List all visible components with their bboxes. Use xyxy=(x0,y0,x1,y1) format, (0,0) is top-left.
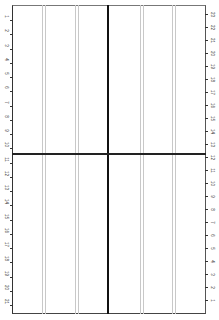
right-axis-label: 22 xyxy=(210,24,215,32)
right-axis-tick xyxy=(205,92,208,93)
right-axis-tick xyxy=(205,248,208,249)
left-axis-tick xyxy=(10,248,13,249)
left-axis-label: 7 xyxy=(4,98,9,106)
right-axis-tick xyxy=(205,157,208,158)
left-axis-label: 3 xyxy=(4,41,9,49)
left-axis-label: 14 xyxy=(4,198,9,206)
center-horizontal-line xyxy=(12,153,206,155)
right-axis-tick xyxy=(205,27,208,28)
right-axis-tick xyxy=(205,222,208,223)
right-axis-tick xyxy=(205,287,208,288)
left-axis-tick xyxy=(10,220,13,221)
right-axis-tick xyxy=(205,131,208,132)
right-axis-tick xyxy=(205,209,208,210)
right-axis-label: 19 xyxy=(210,63,215,71)
right-axis-label: 5 xyxy=(210,245,215,253)
left-axis-tick xyxy=(10,234,13,235)
right-axis-tick xyxy=(205,14,208,15)
left-axis-tick xyxy=(10,163,13,164)
right-axis-label: 4 xyxy=(210,258,215,266)
guide-line xyxy=(42,5,43,314)
right-axis-label: 23 xyxy=(210,11,215,19)
right-axis-tick xyxy=(205,105,208,106)
right-axis-tick xyxy=(205,40,208,41)
right-axis-tick xyxy=(205,235,208,236)
grid-diagram: 123456789101112131415161718192021 232221… xyxy=(0,0,219,320)
left-axis-tick xyxy=(10,91,13,92)
right-axis-tick xyxy=(205,53,208,54)
left-axis-label: 10 xyxy=(4,141,9,149)
left-axis-tick xyxy=(10,305,13,306)
left-axis-label: 13 xyxy=(4,184,9,192)
left-axis-tick xyxy=(10,20,13,21)
left-axis-tick xyxy=(10,177,13,178)
left-axis-label: 9 xyxy=(4,127,9,135)
left-axis-tick xyxy=(10,120,13,121)
right-axis-label: 8 xyxy=(210,206,215,214)
left-axis-tick xyxy=(10,205,13,206)
right-axis-label: 2 xyxy=(210,284,215,292)
guide-line xyxy=(172,5,173,314)
right-axis-tick xyxy=(205,170,208,171)
right-axis-label: 6 xyxy=(210,232,215,240)
right-axis-label: 10 xyxy=(210,180,215,188)
right-axis-tick xyxy=(205,274,208,275)
left-axis-tick xyxy=(10,34,13,35)
guide-line xyxy=(78,5,79,314)
left-axis-tick xyxy=(10,148,13,149)
right-axis-label: 14 xyxy=(210,128,215,136)
left-axis-label: 6 xyxy=(4,84,9,92)
right-axis-label: 13 xyxy=(210,141,215,149)
right-axis-label: 7 xyxy=(210,219,215,227)
right-axis-tick xyxy=(205,118,208,119)
right-axis-label: 9 xyxy=(210,193,215,201)
left-axis-label: 8 xyxy=(4,112,9,120)
left-axis-tick xyxy=(10,134,13,135)
left-axis-label: 20 xyxy=(4,283,9,291)
left-axis-tick xyxy=(10,77,13,78)
left-axis-tick xyxy=(10,191,13,192)
right-axis-label: 11 xyxy=(210,167,215,175)
left-axis-label: 16 xyxy=(4,226,9,234)
right-axis-label: 18 xyxy=(210,76,215,84)
left-axis-label: 11 xyxy=(4,155,9,163)
left-axis-tick xyxy=(10,277,13,278)
right-axis-label: 15 xyxy=(210,115,215,123)
left-axis-tick xyxy=(10,291,13,292)
left-axis-label: 5 xyxy=(4,70,9,78)
right-axis-tick xyxy=(205,79,208,80)
right-axis-tick xyxy=(205,261,208,262)
left-axis-label: 21 xyxy=(4,298,9,306)
left-axis-label: 12 xyxy=(4,169,9,177)
left-axis-label: 19 xyxy=(4,269,9,277)
right-axis-label: 20 xyxy=(210,50,215,58)
right-axis-label: 12 xyxy=(210,154,215,162)
left-axis-label: 17 xyxy=(4,241,9,249)
left-axis-tick xyxy=(10,262,13,263)
left-axis-label: 18 xyxy=(4,255,9,263)
guide-line xyxy=(140,5,141,314)
right-axis-tick xyxy=(205,66,208,67)
right-axis-label: 1 xyxy=(210,297,215,305)
guide-line xyxy=(175,5,176,314)
center-vertical-line xyxy=(107,5,109,314)
left-axis-label: 2 xyxy=(4,27,9,35)
right-axis-tick xyxy=(205,300,208,301)
right-axis-label: 16 xyxy=(210,102,215,110)
right-axis-tick xyxy=(205,183,208,184)
right-axis-label: 17 xyxy=(210,89,215,97)
right-axis-tick xyxy=(205,196,208,197)
left-axis-label: 15 xyxy=(4,212,9,220)
left-axis-label: 1 xyxy=(4,13,9,21)
guide-line xyxy=(143,5,144,314)
guide-line xyxy=(45,5,46,314)
left-axis-label: 4 xyxy=(4,55,9,63)
left-axis-tick xyxy=(10,106,13,107)
left-axis-tick xyxy=(10,49,13,50)
left-axis-tick xyxy=(10,63,13,64)
right-axis-label: 3 xyxy=(210,271,215,279)
guide-line xyxy=(75,5,76,314)
right-axis-tick xyxy=(205,144,208,145)
right-axis-label: 21 xyxy=(210,37,215,45)
